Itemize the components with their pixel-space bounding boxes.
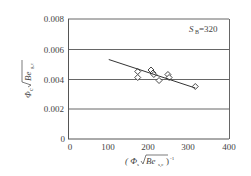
x-tick-label: 400 bbox=[222, 142, 236, 152]
x-tick-label: 0 bbox=[68, 142, 73, 152]
x-label-root-sub: s,c bbox=[158, 162, 164, 168]
x-label-open: ( Φ bbox=[125, 156, 137, 166]
x-axis-label: ( Φ s Be s,c ) -1 bbox=[125, 155, 175, 168]
y-label-sub: c bbox=[28, 88, 34, 91]
data-series bbox=[109, 60, 199, 90]
y-tick-label: 0.002 bbox=[44, 104, 64, 114]
x-label-exp: -1 bbox=[170, 156, 175, 161]
y-tick-labels: 0.008 0.006 0.004 0.002 0 bbox=[44, 14, 66, 144]
plot-area bbox=[68, 19, 230, 139]
diamond-marker-icon bbox=[156, 78, 162, 84]
annotation-s: S bbox=[189, 24, 194, 34]
y-tick-label: 0.006 bbox=[44, 45, 65, 55]
y-tick-label: 0.004 bbox=[44, 75, 65, 85]
x-tick-label: 100 bbox=[101, 142, 115, 152]
x-tick-labels: 0 100 200 300 400 bbox=[68, 142, 237, 152]
x-label-sub: s bbox=[137, 162, 139, 167]
y-label-phi: Φ bbox=[23, 91, 33, 98]
x-label-close: ) bbox=[166, 156, 169, 166]
annotation: S B =320 bbox=[189, 24, 218, 35]
diamond-marker-icon bbox=[192, 84, 198, 90]
fit-line bbox=[109, 60, 196, 89]
x-tick-label: 300 bbox=[181, 142, 195, 152]
x-tick-label: 200 bbox=[141, 142, 155, 152]
annotation-value: =320 bbox=[199, 24, 218, 34]
x-label-root: Be bbox=[146, 156, 156, 166]
y-axis-label: Φ c Be g,c bbox=[22, 60, 35, 98]
y-label-root: Be bbox=[23, 72, 33, 82]
chart: 0.008 0.006 0.004 0.002 0 0 100 200 300 … bbox=[0, 0, 251, 176]
y-tick-label: 0 bbox=[61, 134, 66, 144]
y-tick-label: 0.008 bbox=[44, 14, 65, 24]
y-label-root-sub: g,c bbox=[29, 62, 35, 69]
